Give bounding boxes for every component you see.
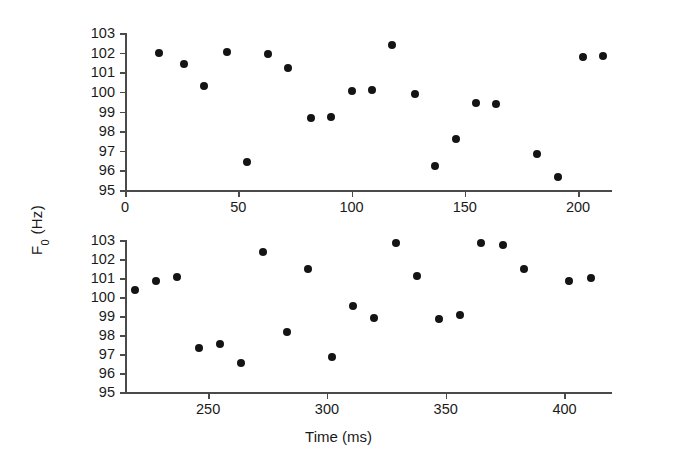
y-axis-tick-label: 96 [57,163,115,178]
data-point [237,359,245,367]
y-axis-tick [120,151,125,153]
data-point [452,135,460,143]
y-axis-tick-label: 100 [57,85,115,100]
x-axis-tick-label: 0 [95,200,155,215]
x-axis-tick-label: 400 [534,402,594,417]
y-axis-tick [120,53,125,55]
x-axis-tick-label: 300 [297,402,357,417]
y-axis-tick [120,170,125,172]
x-axis-tick [578,192,580,197]
data-point [304,265,312,273]
y-axis-tick [120,190,125,192]
data-point [431,162,439,170]
y-axis-tick-label: 100 [57,290,115,305]
y-axis-tick-label: 98 [57,328,115,343]
y-axis-tick-label: 101 [57,271,115,286]
y-axis-tick [120,240,125,242]
data-point [348,87,356,95]
data-point [477,239,485,247]
data-point [413,272,421,280]
y-axis-tick-label: 101 [57,65,115,80]
data-point [370,314,378,322]
y-axis-tick [120,392,125,394]
data-point [173,273,181,281]
y-axis-tick [120,278,125,280]
y-axis-tick-label: 99 [57,309,115,324]
y-axis-tick [120,297,125,299]
scatter-chart-figure: F0 (Hz) Time (ms) 9596979899100101102103… [0,0,677,467]
y-axis-tick-label: 95 [57,385,115,400]
data-point [492,100,500,108]
data-point [499,241,507,249]
x-axis-tick-label: 100 [322,200,382,215]
data-point [392,239,400,247]
y-axis-tick [120,354,125,356]
x-axis-tick [352,192,354,197]
x-axis-spine [125,190,612,192]
x-axis-tick [446,394,448,399]
x-axis-tick [327,394,329,399]
data-point [554,173,562,181]
data-point [565,277,573,285]
y-axis-tick-label: 102 [57,252,115,267]
data-point [456,311,464,319]
x-axis-tick [465,192,467,197]
x-axis-tick-label: 350 [416,402,476,417]
x-axis-tick-label: 150 [435,200,495,215]
y-axis-tick [120,335,125,337]
x-axis-tick-label: 50 [208,200,268,215]
y-axis-tick [120,316,125,318]
data-point [533,150,541,158]
y-axis-tick [120,373,125,375]
data-point [327,113,335,121]
data-point [579,53,587,61]
data-point [200,82,208,90]
data-point [388,41,396,49]
data-point [368,86,376,94]
y-axis-label: F0 (Hz) [18,160,58,300]
data-point [349,302,357,310]
data-point [587,274,595,282]
data-point [328,353,336,361]
y-axis-label-base: F [28,245,45,254]
data-point [307,114,315,122]
y-axis-tick-label: 102 [57,46,115,61]
x-axis-tick [125,192,127,197]
x-axis-tick-label: 250 [178,402,238,417]
y-axis-label-unit: (Hz) [28,205,45,239]
data-point [472,99,480,107]
x-axis-label: Time (ms) [0,428,677,445]
x-axis-tick-label: 200 [548,200,608,215]
top-panel-plot-area: 9596979899100101102103050100150200 [0,0,677,467]
data-point [259,248,267,256]
y-axis-tick-label: 96 [57,366,115,381]
x-axis-tick [238,192,240,197]
y-axis-tick-label: 97 [57,347,115,362]
x-axis-tick [564,394,566,399]
data-point [264,50,272,58]
data-point [284,64,292,72]
data-point [195,344,203,352]
data-point [216,340,224,348]
y-axis-tick-label: 95 [57,183,115,198]
data-point [152,277,160,285]
data-point [131,286,139,294]
y-axis-spine [125,240,127,392]
y-axis-tick [120,92,125,94]
y-axis-tick [120,259,125,261]
y-axis-tick [120,33,125,35]
data-point [599,52,607,60]
data-point [283,328,291,336]
y-axis-tick-label: 99 [57,105,115,120]
bottom-panel-plot-area: 9596979899100101102103250300350400 [0,0,677,467]
y-axis-label-subscript: 0 [39,239,51,245]
y-axis-tick-label: 103 [57,26,115,41]
y-axis-tick-label: 103 [57,233,115,248]
data-point [520,265,528,273]
x-axis-tick [208,394,210,399]
y-axis-tick [120,131,125,133]
data-point [435,315,443,323]
data-point [223,48,231,56]
y-axis-tick [120,112,125,114]
data-point [155,49,163,57]
